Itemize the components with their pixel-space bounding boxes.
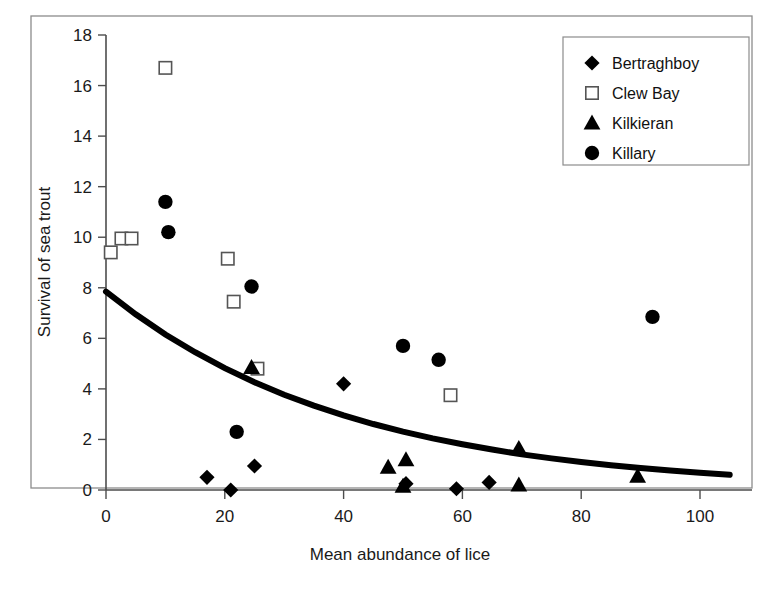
y-tick-label-2: 2 (83, 430, 92, 449)
legend-label-bertraghboy: Bertraghboy (612, 55, 699, 72)
legend-marker-clew-bay (586, 87, 598, 99)
y-tick-label-16: 16 (73, 77, 92, 96)
y-axis-ticks: 024681012141618 (73, 26, 106, 500)
y-tick-label-12: 12 (73, 178, 92, 197)
plot-canvas: 024681012141618 020406080100 Survival of… (0, 0, 780, 591)
legend-marker-bertraghboy (584, 55, 599, 70)
point-killary-3 (229, 425, 243, 439)
y-axis-title: Survival of sea trout (35, 187, 54, 338)
legend-marker-kilkieran (584, 115, 601, 130)
y-tick-label-6: 6 (83, 329, 92, 348)
y-tick-label-10: 10 (73, 228, 92, 247)
x-tick-label-0: 0 (101, 507, 110, 526)
y-tick-label-18: 18 (73, 26, 92, 45)
point-bertraghboy-2 (247, 458, 262, 473)
point-killary-4 (396, 339, 410, 353)
x-tick-label-100: 100 (686, 507, 714, 526)
point-kilkieran-3 (398, 451, 415, 466)
x-tick-label-60: 60 (453, 507, 472, 526)
point-clew-bay-5 (228, 295, 240, 307)
point-bertraghboy-0 (199, 470, 214, 485)
y-tick-label-8: 8 (83, 279, 92, 298)
series-killary (158, 195, 659, 439)
legend-marker-killary (585, 146, 599, 160)
series-kilkieran (243, 359, 646, 493)
point-kilkieran-5 (510, 477, 527, 492)
point-clew-bay-7 (444, 389, 456, 401)
point-clew-bay-3 (159, 62, 171, 74)
point-kilkieran-4 (510, 440, 527, 455)
point-killary-5 (431, 353, 445, 367)
point-killary-0 (158, 195, 172, 209)
x-tick-label-40: 40 (334, 507, 353, 526)
legend-label-clew-bay: Clew Bay (612, 85, 680, 102)
point-kilkieran-1 (380, 459, 397, 474)
point-killary-2 (244, 279, 258, 293)
x-tick-label-80: 80 (572, 507, 591, 526)
y-tick-label-0: 0 (83, 481, 92, 500)
exponential-fit-curve (106, 292, 730, 475)
scatter-plot-figure: 024681012141618 020406080100 Survival of… (0, 0, 780, 591)
point-clew-bay-0 (105, 246, 117, 258)
point-clew-bay-2 (125, 232, 137, 244)
point-killary-6 (645, 310, 659, 324)
point-killary-1 (161, 225, 175, 239)
point-clew-bay-4 (222, 253, 234, 265)
x-axis-title: Mean abundance of lice (310, 545, 491, 564)
y-tick-label-14: 14 (73, 127, 92, 146)
data-markers-layer (105, 62, 660, 498)
legend: BertraghboyClew BayKilkieranKillary (563, 37, 749, 165)
point-bertraghboy-3 (336, 376, 351, 391)
x-tick-label-20: 20 (215, 507, 234, 526)
x-axis-ticks: 020406080100 (101, 490, 714, 526)
legend-label-kilkieran: Kilkieran (612, 115, 673, 132)
y-tick-label-4: 4 (83, 380, 92, 399)
legend-label-killary: Killary (612, 145, 656, 162)
axes-group (106, 35, 752, 490)
